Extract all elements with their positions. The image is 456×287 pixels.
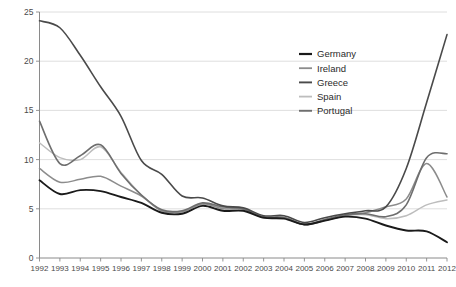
series-line-germany <box>40 180 448 242</box>
x-tick-label: 1992 <box>31 264 49 273</box>
axes <box>40 12 448 258</box>
x-tick-label: 2008 <box>357 264 375 273</box>
x-tick-label: 1998 <box>153 264 171 273</box>
x-tick-label: 1995 <box>92 264 110 273</box>
x-tick-label: 2002 <box>234 264 252 273</box>
series-line-ireland <box>40 164 448 225</box>
x-tick-label: 2006 <box>316 264 334 273</box>
y-axis-ticks: 0510152025 <box>24 7 39 263</box>
y-tick-label: 25 <box>24 7 34 17</box>
x-tick-label: 2004 <box>275 264 293 273</box>
line-chart: 1992199319941995199619971998199920002001… <box>0 0 456 287</box>
legend-label-germany: Germany <box>317 48 356 59</box>
x-axis-ticks: 1992199319941995199619971998199920002001… <box>31 258 456 273</box>
y-tick-label: 0 <box>29 253 34 263</box>
y-tick-label: 5 <box>29 204 34 214</box>
chart-canvas: 1992199319941995199619971998199920002001… <box>0 0 456 287</box>
legend-label-ireland: Ireland <box>317 63 346 74</box>
x-tick-label: 1996 <box>112 264 130 273</box>
legend-label-portugal: Portugal <box>317 105 352 116</box>
x-tick-label: 2012 <box>438 264 456 273</box>
x-tick-label: 1999 <box>173 264 191 273</box>
series-line-greece <box>40 21 448 223</box>
legend-label-spain: Spain <box>317 91 341 102</box>
x-tick-label: 2009 <box>377 264 395 273</box>
x-tick-label: 2003 <box>255 264 273 273</box>
y-tick-label: 10 <box>24 155 34 165</box>
x-tick-label: 1994 <box>71 264 89 273</box>
x-tick-label: 1993 <box>51 264 69 273</box>
x-tick-label: 2000 <box>194 264 212 273</box>
x-tick-label: 2005 <box>295 264 313 273</box>
x-tick-label: 2011 <box>418 264 436 273</box>
legend-label-greece: Greece <box>317 77 348 88</box>
x-tick-label: 2007 <box>336 264 354 273</box>
y-tick-label: 15 <box>24 105 34 115</box>
y-tick-label: 20 <box>24 56 34 66</box>
gridlines <box>40 12 448 209</box>
chart-legend: GermanyIrelandGreeceSpainPortugal <box>299 48 356 116</box>
x-tick-label: 1997 <box>132 264 150 273</box>
x-tick-label: 2010 <box>397 264 415 273</box>
x-tick-label: 2001 <box>214 264 232 273</box>
series-line-spain <box>40 143 448 225</box>
